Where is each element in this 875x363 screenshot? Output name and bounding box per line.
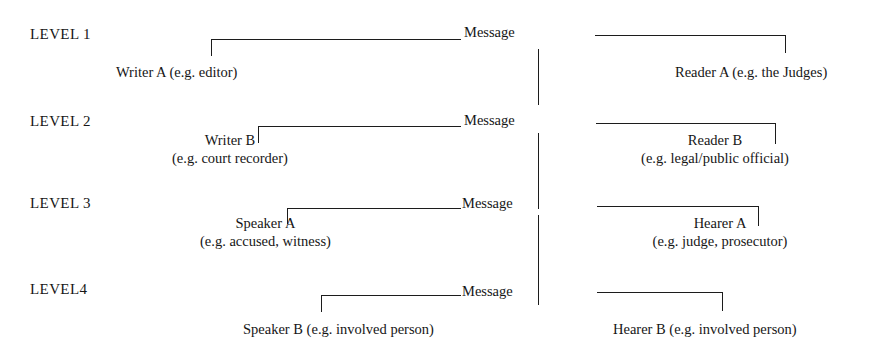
center-divider-segment-2 — [538, 133, 539, 209]
receiver-node-2: Reader B (e.g. legal/public official) — [625, 131, 805, 167]
sender-detail-3: (e.g. accused, witness) — [200, 232, 331, 250]
sender-bracket-stub-4 — [321, 295, 322, 312]
receiver-bracket-stub-1 — [785, 35, 786, 53]
level-label-3: LEVEL 3 — [30, 195, 91, 212]
sender-bracket-stub-1 — [211, 39, 212, 56]
message-label-2: Message — [464, 112, 515, 129]
sender-bracket-horizontal-4 — [321, 295, 461, 296]
receiver-bracket-horizontal-3 — [597, 206, 759, 207]
center-divider-segment-1 — [538, 49, 539, 105]
receiver-bracket-horizontal-4 — [597, 292, 723, 293]
receiver-detail-2: (e.g. legal/public official) — [625, 149, 805, 167]
sender-bracket-horizontal-3 — [287, 208, 461, 209]
receiver-name-2: Reader B — [688, 132, 742, 148]
diagram-canvas: LEVEL 1 Writer A (e.g. editor) Message R… — [0, 0, 875, 363]
receiver-name-4: Hearer B (e.g. involved person) — [613, 321, 797, 337]
receiver-node-3: Hearer A (e.g. judge, prosecutor) — [640, 214, 800, 250]
message-label-1: Message — [464, 24, 515, 41]
receiver-name-1: Reader A (e.g. the Judges) — [675, 64, 827, 80]
message-label-4: Message — [462, 283, 513, 300]
level-label-2: LEVEL 2 — [30, 113, 91, 130]
sender-node-3: Speaker A (e.g. accused, witness) — [200, 214, 331, 250]
center-divider-segment-3 — [538, 215, 539, 305]
sender-detail-2: (e.g. court recorder) — [172, 149, 288, 167]
sender-bracket-horizontal-2 — [258, 126, 461, 127]
level-label-1: LEVEL 1 — [30, 26, 91, 43]
receiver-detail-3: (e.g. judge, prosecutor) — [640, 232, 800, 250]
sender-node-4: Speaker B (e.g. involved person) — [243, 320, 434, 338]
receiver-node-4: Hearer B (e.g. involved person) — [613, 320, 797, 338]
sender-node-2: Writer B (e.g. court recorder) — [172, 131, 288, 167]
message-label-3: Message — [462, 195, 513, 212]
receiver-bracket-stub-4 — [722, 292, 723, 311]
receiver-name-3: Hearer A — [694, 215, 747, 231]
receiver-node-1: Reader A (e.g. the Judges) — [675, 63, 827, 81]
sender-name-2: Writer B — [205, 132, 256, 148]
sender-bracket-horizontal-1 — [211, 39, 461, 40]
sender-node-1: Writer A (e.g. editor) — [116, 63, 237, 81]
receiver-bracket-horizontal-1 — [595, 35, 786, 36]
sender-name-3: Speaker A — [235, 215, 295, 231]
level-label-4: LEVEL4 — [30, 281, 87, 298]
sender-name-4: Speaker B (e.g. involved person) — [243, 321, 434, 337]
sender-name-1: Writer A (e.g. editor) — [116, 64, 237, 80]
receiver-bracket-horizontal-2 — [596, 123, 776, 124]
